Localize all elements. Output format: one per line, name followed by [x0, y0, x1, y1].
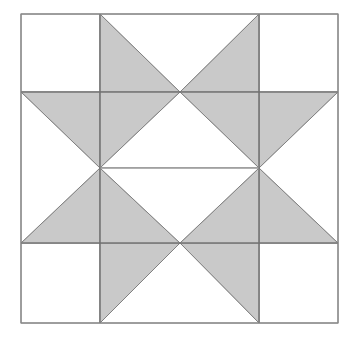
bottom-right-corner-square	[259, 243, 338, 323]
top-right-corner-square	[259, 14, 338, 92]
bottom-left-corner-square	[21, 243, 100, 323]
top-left-corner-square	[21, 14, 100, 92]
pattern-canvas	[0, 0, 355, 341]
shape-layer	[21, 14, 338, 323]
star-quilt-block-figure	[0, 0, 355, 341]
